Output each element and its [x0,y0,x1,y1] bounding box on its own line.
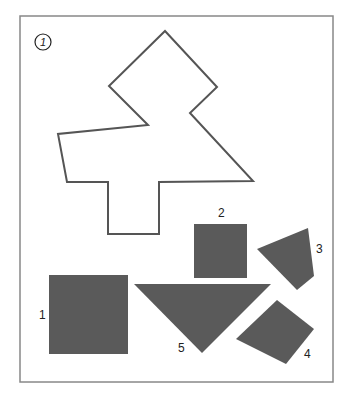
piece-2-label: 2 [218,206,225,220]
tangram-puzzle-diagram: 1 1 2 3 4 5 [0,0,350,398]
piece-2-square[interactable] [194,224,247,278]
badge-number: 1 [40,36,46,48]
piece-1[interactable]: 1 [39,275,128,354]
piece-1-square[interactable] [49,275,128,354]
piece-5-label: 5 [178,341,185,355]
piece-1-label: 1 [39,308,46,322]
piece-4-label: 4 [304,347,311,361]
piece-3-label: 3 [316,242,323,256]
